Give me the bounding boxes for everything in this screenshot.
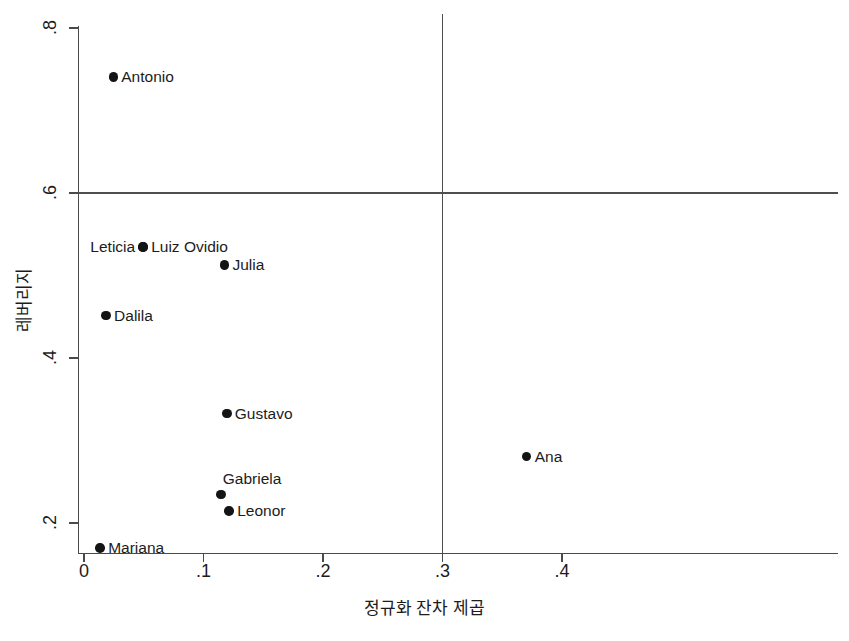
data-point-label: Luiz Ovidio (151, 239, 228, 255)
y-tick-label-text: .6 (40, 185, 61, 200)
data-point-marker[interactable] (109, 72, 119, 82)
data-point-marker[interactable] (220, 260, 230, 270)
x-tick-label: 0 (64, 561, 104, 582)
data-point-marker[interactable] (101, 311, 111, 321)
x-tick-label: .2 (303, 561, 343, 582)
leverage-threshold-line (78, 192, 838, 193)
y-axis-line (78, 26, 79, 554)
data-point-label: Julia (232, 257, 264, 273)
x-tick-label: .4 (542, 561, 582, 582)
data-point-label: Mariana (108, 540, 164, 556)
x-tick-label: .3 (423, 561, 463, 582)
data-point-label: Leticia (90, 239, 135, 255)
data-point-marker[interactable] (522, 452, 532, 462)
y-tick-label: .8 (28, 17, 58, 38)
data-point-marker[interactable] (138, 242, 148, 252)
x-axis-line (78, 553, 838, 554)
data-point-label: Ana (535, 449, 563, 465)
scatter-plot: .2.4.6.8 0.1.2.3.4 AntonioLeticiaLuiz Ov… (0, 0, 849, 641)
residual-threshold-line (442, 14, 443, 553)
data-point-label: Antonio (121, 69, 174, 85)
y-tick-mark (69, 357, 78, 358)
y-axis-title: 레버리지 (10, 240, 35, 360)
data-point-label: Dalila (114, 308, 153, 324)
x-tick-label: .1 (184, 561, 224, 582)
y-tick-label-text: .2 (40, 515, 61, 530)
data-point-marker[interactable] (224, 506, 234, 516)
data-point-marker[interactable] (216, 490, 226, 500)
y-tick-mark (69, 192, 78, 193)
data-point-marker[interactable] (95, 543, 105, 553)
y-tick-label-text: .4 (40, 350, 61, 365)
data-point-label: Leonor (237, 503, 285, 519)
y-tick-label: .2 (28, 512, 58, 533)
data-point-label: Gabriela (223, 471, 282, 487)
x-axis-title: 정규화 잔차 제곱 (0, 594, 849, 619)
y-tick-label-text: .8 (40, 20, 61, 35)
data-point-label: Gustavo (235, 406, 293, 422)
y-tick-label: .6 (28, 182, 58, 203)
y-tick-mark (69, 27, 78, 28)
y-tick-mark (69, 522, 78, 523)
data-point-marker[interactable] (222, 409, 232, 419)
